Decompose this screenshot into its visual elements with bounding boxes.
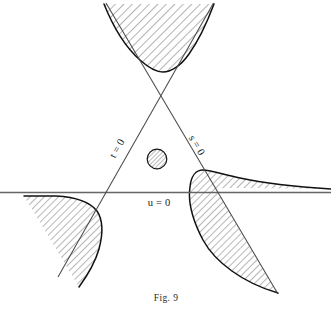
right-region-fill (190, 170, 331, 293)
figure-caption: Fig. 9 (154, 293, 179, 303)
lower-left-region-fill (24, 196, 102, 287)
figure-container: t = 0 s = 0 u = 0 Fig. 9 (0, 0, 331, 316)
label-u-equals-zero: u = 0 (148, 197, 171, 208)
figure-canvas: t = 0 s = 0 u = 0 Fig. 9 (0, 0, 331, 316)
label-t-equals-zero: t = 0 (107, 137, 127, 160)
